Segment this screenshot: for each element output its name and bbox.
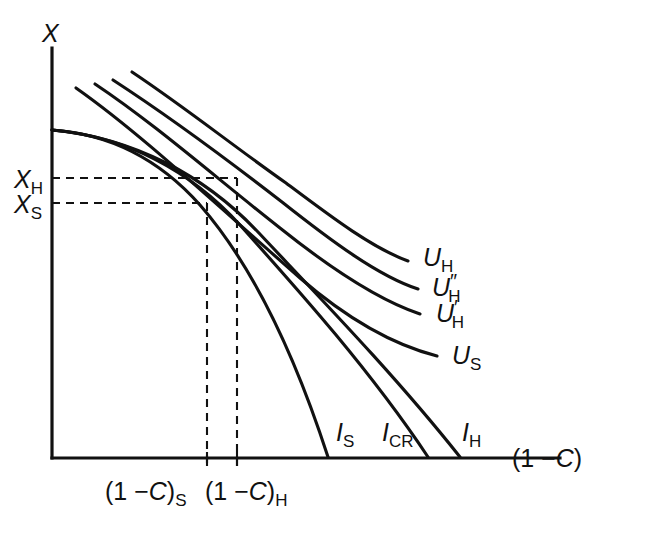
- curve-label-i-cr-sub: CR: [389, 432, 414, 451]
- curve-label-u-s-sub: S: [470, 355, 481, 374]
- curve-label-i-s-sub: S: [343, 432, 354, 451]
- x-tick-h-close: ): [267, 477, 275, 505]
- x-axis-title-close: ): [574, 444, 582, 472]
- curve-label-i-s: IS: [336, 418, 354, 451]
- curve-label-u-s: US: [452, 341, 481, 374]
- x-axis-title-minus: −: [541, 444, 556, 472]
- x-tick-s-variable: C: [149, 477, 168, 505]
- x-tick-s-close: ): [167, 477, 175, 505]
- curve-label-u-s-base: U: [452, 341, 471, 369]
- utility-frontier-diagram: X (1 −C) XH XS (1 −C)S (1 −C)H UH U″H U′…: [0, 0, 652, 533]
- x-tick-s-sub: S: [175, 491, 186, 510]
- x-axis-title: (1 −C): [512, 444, 582, 472]
- y-tick-sub-x-s: S: [31, 204, 42, 223]
- curve-u-h-double-prime: [113, 80, 418, 289]
- curve-u-h-prime: [95, 84, 420, 314]
- y-tick-base-x-s: X: [13, 190, 32, 218]
- curve-label-u-h-base: U: [423, 243, 442, 271]
- y-tick-sub-x-h: H: [31, 179, 43, 198]
- curve-label-i-h-base: I: [462, 418, 469, 446]
- curve-u-s: [76, 88, 437, 356]
- curve-label-i-h: IH: [462, 418, 481, 451]
- x-tick-s-prefix: (1: [105, 477, 134, 505]
- curve-label-i-cr-base: I: [382, 418, 389, 446]
- figure-container: X (1 −C) XH XS (1 −C)S (1 −C)H UH U″H U′…: [0, 0, 652, 533]
- curve-label-i-cr: ICR: [382, 418, 414, 451]
- x-tick-label-one-minus-c-s: (1 −C)S: [105, 477, 187, 510]
- x-axis-title-open: (1: [512, 444, 541, 472]
- curve-label-i-h-sub: H: [469, 432, 481, 451]
- x-tick-h-minus: −: [234, 477, 249, 505]
- curve-label-u-h: UH: [423, 243, 453, 276]
- x-tick-h-variable: C: [249, 477, 268, 505]
- x-tick-s-minus: −: [134, 477, 149, 505]
- x-tick-h-prefix: (1: [205, 477, 234, 505]
- x-tick-label-one-minus-c-h: (1 −C)H: [205, 477, 287, 510]
- curve-label-u-h-p-sub: H: [452, 313, 464, 332]
- x-axis-title-variable: C: [556, 444, 575, 472]
- curve-label-i-s-base: I: [336, 418, 343, 446]
- y-tick-base-x-h: X: [13, 165, 32, 193]
- x-tick-h-sub: H: [275, 491, 287, 510]
- y-axis-title: X: [41, 19, 60, 47]
